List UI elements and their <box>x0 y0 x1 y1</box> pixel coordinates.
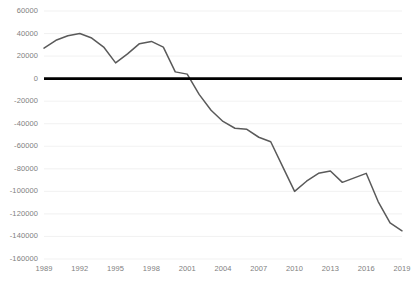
y-tick-label-8: -100000 <box>0 187 38 195</box>
x-tick-label-3: 1998 <box>131 265 171 273</box>
x-tick-label-1: 1992 <box>60 265 100 273</box>
x-tick-label-7: 2010 <box>275 265 315 273</box>
y-tick-label-0: 60000 <box>0 7 38 15</box>
y-tick-label-1: 40000 <box>0 30 38 38</box>
x-tick-label-6: 2007 <box>239 265 279 273</box>
y-tick-label-10: -140000 <box>0 232 38 240</box>
gridlines-group <box>44 11 402 259</box>
x-tick-label-5: 2004 <box>203 265 243 273</box>
y-tick-label-5: -40000 <box>0 120 38 128</box>
x-tick-label-0: 1989 <box>24 265 64 273</box>
y-tick-label-2: 20000 <box>0 52 38 60</box>
y-tick-label-3: 0 <box>0 75 38 83</box>
x-tick-label-4: 2001 <box>167 265 207 273</box>
y-tick-label-9: -120000 <box>0 210 38 218</box>
x-tick-label-9: 2016 <box>346 265 386 273</box>
x-tick-label-10: 2019 <box>382 265 415 273</box>
data-series-line <box>44 34 402 231</box>
y-tick-label-11: -160000 <box>0 255 38 263</box>
x-tick-label-2: 1995 <box>96 265 136 273</box>
y-tick-label-6: -60000 <box>0 142 38 150</box>
x-tick-label-8: 2013 <box>310 265 350 273</box>
y-tick-label-7: -80000 <box>0 165 38 173</box>
y-tick-label-4: -20000 <box>0 97 38 105</box>
